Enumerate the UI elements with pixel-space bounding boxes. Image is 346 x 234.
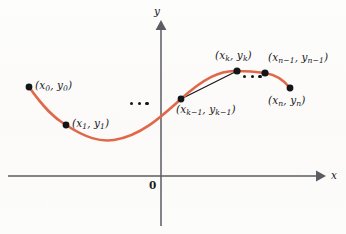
ellipsis-dot (130, 102, 133, 105)
point-label-pk: (xk, yk) (215, 50, 252, 62)
point-label-p0: (x0, y0) (35, 80, 72, 92)
x-subscript: n (278, 99, 283, 108)
y-subscript: n−1 (308, 56, 324, 65)
ellipsis-left (130, 102, 149, 105)
paren-close: ) (301, 94, 305, 106)
x-subscript: 0 (45, 84, 50, 93)
ellipsis-dot (243, 75, 246, 78)
point-label-pn: (xn, yn) (268, 95, 305, 107)
point-pk-1 (178, 96, 185, 103)
point-label-p1: (x1, y1) (72, 118, 109, 130)
paren-close: ) (248, 49, 252, 61)
figure-canvas (0, 0, 346, 234)
x-subscript: k−1 (186, 108, 202, 117)
chord-segment (181, 71, 237, 99)
paren-close: ) (68, 79, 72, 91)
y-axis-arrowhead (156, 20, 167, 30)
paren-close: ) (105, 117, 109, 129)
point-p1 (63, 122, 70, 129)
point-pn (287, 85, 294, 92)
curve-approximation-figure: y x 0 (x0, y0) (x1, y1) (xk−1, yk−1) (xk… (0, 0, 346, 234)
point-label-pk-1: (xk−1, yk−1) (176, 104, 236, 116)
x-axis-label: x (331, 170, 337, 181)
axes-group (8, 20, 326, 226)
paren-close: ) (324, 51, 328, 63)
ellipsis-right (243, 75, 262, 78)
ellipsis-dot (251, 75, 254, 78)
point-pn-1 (261, 69, 268, 76)
y-subscript: k−1 (215, 108, 231, 117)
point-p0 (26, 84, 33, 91)
ellipsis-dot (258, 75, 261, 78)
ellipsis-dot (138, 102, 141, 105)
x-subscript: n−1 (278, 56, 294, 65)
paren-close: ) (231, 103, 235, 115)
x-subscript: 1 (82, 122, 87, 131)
point-label-pn-1: (xn−1, yn−1) (268, 52, 328, 64)
y-axis-label: y (154, 6, 160, 17)
origin-label: 0 (149, 180, 156, 191)
ellipsis-dot (145, 102, 148, 105)
point-pk (233, 67, 240, 74)
x-axis-arrowhead (316, 171, 326, 182)
x-subscript: k (225, 54, 230, 63)
